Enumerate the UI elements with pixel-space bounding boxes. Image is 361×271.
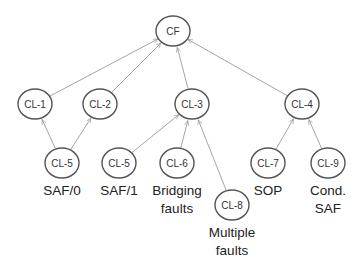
node-caption: Multiplefaults [209, 224, 256, 260]
node-cl-2: CL-2 [83, 89, 117, 119]
edge-cl-5a-to-cl-1 [42, 119, 55, 148]
node-caption: SOP [254, 182, 283, 200]
node-label: CL-5 [108, 158, 130, 169]
node-cf: CF [156, 16, 190, 46]
node-label: CL-6 [166, 158, 188, 169]
node-cl-4: CL-4 [285, 89, 319, 119]
node-cl-5b: CL-5 [102, 148, 136, 178]
node-label: CL-7 [257, 158, 279, 169]
caption-line: Cond. [310, 182, 346, 200]
node-label: CL-5 [51, 158, 73, 169]
node-caption: SAF/0 [43, 182, 81, 200]
caption-line: SAF [310, 200, 346, 218]
node-label: CL-8 [221, 200, 243, 211]
edge-cl-1-to-cf [49, 39, 158, 97]
node-cl-5a: CL-5 [45, 148, 79, 178]
node-label: CL-4 [291, 99, 313, 110]
node-label: CL-1 [24, 99, 46, 110]
node-cl-1: CL-1 [18, 89, 52, 119]
node-caption: SAF/1 [100, 182, 138, 200]
edge-cl-5a-to-cl-2 [71, 118, 91, 149]
caption-line: Multiple [209, 224, 256, 242]
node-caption: Bridgingfaults [152, 182, 202, 218]
node-label: CL-3 [181, 99, 203, 110]
node-caption: Cond.SAF [310, 182, 346, 218]
edge-cl-9-to-cl-4 [309, 120, 322, 149]
caption-line: SAF/1 [100, 182, 138, 200]
node-label: CL-9 [317, 158, 339, 169]
node-cl-9: CL-9 [311, 148, 345, 178]
edge-cl-5b-to-cl-3 [131, 115, 178, 153]
node-label: CL-2 [89, 99, 111, 110]
fault-hierarchy-diagram: CFCL-1CL-2CL-3CL-4CL-5CL-5CL-6CL-8CL-7CL… [0, 0, 361, 271]
caption-line: Bridging [152, 182, 202, 200]
edge-cl-3-to-cf [177, 47, 188, 88]
caption-line: faults [209, 242, 256, 260]
edge-cl-7-to-cl-4 [276, 119, 294, 149]
node-cl-6: CL-6 [160, 148, 194, 178]
caption-line: faults [152, 200, 202, 218]
edge-cl-4-to-cf [188, 39, 288, 96]
edge-cl-6-to-cl-3 [181, 120, 188, 147]
node-label: CF [166, 26, 179, 37]
caption-line: SOP [254, 182, 283, 200]
node-cl-3: CL-3 [175, 89, 209, 119]
node-cl-8: CL-8 [215, 190, 249, 220]
node-cl-7: CL-7 [251, 148, 285, 178]
caption-line: SAF/0 [43, 182, 81, 200]
edge-cl-8-to-cl-3 [198, 120, 226, 190]
